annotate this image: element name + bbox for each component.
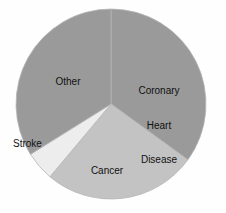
- pie-slice-group: [16, 9, 206, 199]
- pie-chart-canvas: [0, 0, 226, 213]
- pie-chart-figure: Coronary Heart Disease Other Cancer Stro…: [0, 0, 226, 213]
